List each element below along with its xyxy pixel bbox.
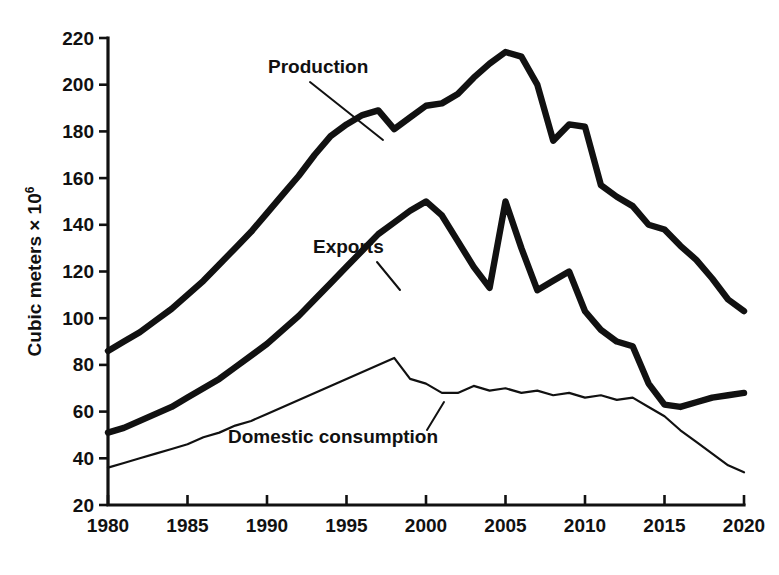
y-tick-label: 20 [73, 495, 94, 516]
y-axis-title-base: Cubic meters × 10 [24, 193, 45, 356]
y-tick-label: 100 [62, 308, 94, 329]
y-tick-label: 40 [73, 448, 94, 469]
y-tick-label: 200 [62, 74, 94, 95]
x-tick-label: 2010 [564, 515, 606, 536]
chart-background [0, 0, 779, 575]
y-tick-label: 180 [62, 121, 94, 142]
y-tick-label: 160 [62, 168, 94, 189]
x-tick-label: 2020 [723, 515, 765, 536]
x-tick-label: 2005 [484, 515, 527, 536]
exports-annotation-label: Exports [313, 236, 384, 257]
y-axis-title-exponent: 6 [23, 186, 37, 193]
y-tick-label: 60 [73, 401, 94, 422]
x-tick-label: 1985 [166, 515, 209, 536]
chart-container: 20406080100120140160180200220 1980198519… [0, 0, 779, 575]
y-tick-label: 80 [73, 354, 94, 375]
production-annotation-label: Production [268, 56, 368, 77]
x-tick-label: 1980 [87, 515, 129, 536]
x-tick-label: 2015 [643, 515, 686, 536]
line-chart: 20406080100120140160180200220 1980198519… [0, 0, 779, 575]
domestic-consumption-annotation-label: Domestic consumption [228, 426, 438, 447]
x-axis-ticks: 198019851990199520002005201020152020 [87, 495, 765, 536]
y-axis-title: Cubic meters × 106 [23, 186, 45, 356]
x-tick-label: 1990 [246, 515, 288, 536]
y-axis-title-group: Cubic meters × 106 [23, 186, 45, 356]
x-tick-label: 2000 [405, 515, 447, 536]
y-tick-label: 120 [62, 261, 94, 282]
y-axis-title-text: Cubic meters × 106 [23, 186, 45, 356]
y-tick-label: 220 [62, 28, 94, 49]
x-tick-label: 1995 [325, 515, 368, 536]
y-tick-label: 140 [62, 214, 94, 235]
